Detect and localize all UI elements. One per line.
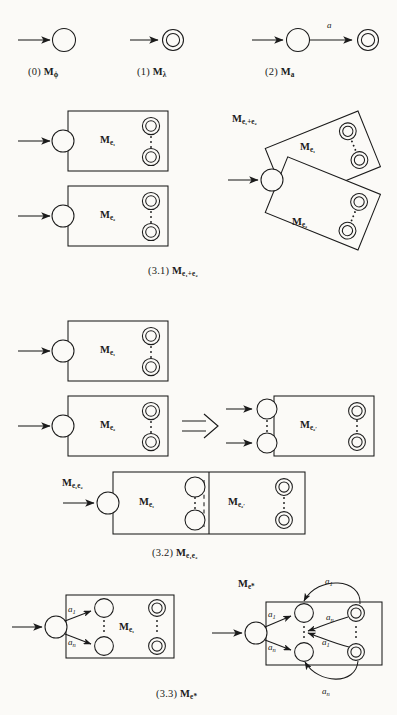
star-loop-label-top: a1 — [325, 576, 333, 587]
figure-canvas: (0) Mϕ (1) Mλ (2) Ma a Me₁ Me₂ Me₁+e₂ Me… — [0, 0, 397, 715]
union-source-box-1-label: Me₁ — [100, 134, 115, 147]
union-result-box-2-label: Me₂ — [292, 216, 307, 229]
caption-sub-1: λ — [163, 71, 167, 79]
star-source-box — [12, 595, 174, 658]
caption-machine-symbol: (2) Ma — [265, 66, 295, 79]
caption-machine-1: M — [153, 66, 163, 77]
star-result — [212, 583, 382, 679]
star-source-box-label: Me₁ — [119, 621, 134, 634]
concat-result-left-label: Me₁ — [139, 496, 154, 509]
concat-source-box-1-label: Me₁ — [100, 344, 115, 357]
machine-lambda — [130, 30, 184, 51]
diagram-vector-layer — [0, 0, 397, 715]
caption-machine-0: M — [44, 66, 54, 77]
caption-sub-0: ϕ — [54, 71, 59, 79]
star-result-edge-an: an — [268, 642, 276, 653]
concat-result-right-label: Me₂′ — [228, 496, 245, 509]
union-source-box-2-label: Me₂ — [100, 209, 115, 222]
concat-result — [63, 472, 305, 534]
edge-label-a: a — [327, 20, 332, 30]
caption-index-0: (0) — [28, 66, 41, 77]
caption-machine-2: M — [281, 66, 291, 77]
caption-star: (3.3) Me* — [156, 688, 197, 701]
machine-empty — [18, 29, 76, 52]
union-source-box-2 — [18, 186, 168, 246]
union-result — [228, 111, 380, 250]
caption-concat: (3.2) Me₁e₂ — [152, 547, 198, 560]
concat-source-box-1 — [18, 321, 168, 381]
star-loop-label-bottom: an — [322, 686, 330, 697]
concat-source-box-2-label: Me₂ — [100, 419, 115, 432]
star-result-outer-label: Me* — [238, 578, 255, 591]
caption-sub-2: a — [291, 71, 295, 79]
transform-double-arrow — [182, 414, 218, 438]
concat-derived-box-label: Me₂′ — [300, 419, 317, 432]
caption-index-2: (2) — [265, 66, 278, 77]
caption-index-1: (1) — [137, 66, 150, 77]
concat-source-box-2 — [18, 396, 168, 456]
caption-machine-empty: (0) Mϕ — [28, 66, 58, 79]
union-result-outer-label: Me₁+e₂ — [232, 113, 257, 126]
caption-machine-lambda: (1) Mλ — [137, 66, 167, 79]
star-result-edge-a1: a1 — [268, 609, 276, 620]
star-source-edge-an: an — [68, 637, 76, 648]
caption-union: (3.1) Me₁+e₂ — [148, 265, 198, 278]
union-source-box-1 — [18, 111, 168, 171]
union-result-box-1-label: Me₁ — [300, 141, 315, 154]
star-loop-label-lower-mid: a1 — [322, 637, 330, 648]
concat-result-outer-label: Me₁e₂ — [62, 477, 83, 490]
star-loop-label-upper-mid: an — [326, 612, 334, 623]
machine-symbol-a — [252, 29, 379, 52]
star-source-edge-a1: a1 — [68, 604, 76, 615]
